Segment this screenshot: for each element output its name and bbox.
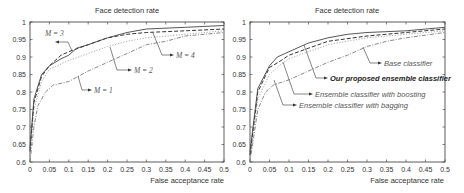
y-tick-label: 0.75 — [232, 106, 246, 113]
arrow-icon — [88, 89, 92, 92]
annotation-label: M = 1 — [93, 86, 113, 95]
y-tick-label: 0.95 — [232, 36, 246, 43]
y-tick-label: 0.8 — [236, 89, 246, 96]
x-tick-label: 0.3 — [362, 166, 372, 173]
left-annotation-m1: M = 1 — [78, 76, 113, 95]
series-line — [30, 33, 224, 163]
y-tick-label: 0.9 — [16, 54, 26, 61]
y-tick-label: 0.75 — [12, 106, 26, 113]
annotation-label: M = 3 — [44, 29, 64, 38]
annotation-label: Ensemble classifier with boosting — [315, 90, 426, 99]
y-tick-label: 1 — [242, 19, 246, 26]
x-tick-label: 0.5 — [440, 166, 450, 173]
y-tick-label: 0.6 — [16, 159, 26, 166]
x-tick-label: 0.45 — [419, 166, 433, 173]
x-tick-label: 0.3 — [142, 166, 152, 173]
x-tick-label: 0.25 — [120, 166, 134, 173]
y-tick-label: 0.7 — [16, 124, 26, 131]
x-tick-label: 0.4 — [180, 166, 190, 173]
x-tick-label: 0.5 — [219, 166, 229, 173]
annotation-label: Our proposed ensemble classifier — [330, 74, 452, 83]
arrow-icon — [324, 77, 328, 80]
arrow-icon — [378, 62, 382, 65]
arrow-icon — [309, 93, 313, 96]
left-x-axis-label: False acceptance rate — [150, 176, 224, 185]
left-annotation-m3: M = 3 — [44, 29, 72, 51]
x-tick-label: 0.35 — [380, 166, 394, 173]
x-tick-label: 0.05 — [43, 166, 57, 173]
left-plot-frame — [30, 22, 224, 162]
y-tick-label: 0.9 — [236, 54, 246, 61]
x-tick-label: 0.4 — [401, 166, 411, 173]
x-tick-label: 0.35 — [159, 166, 173, 173]
right-chart-title: Face detection rate — [315, 6, 379, 15]
y-tick-label: 0.85 — [12, 71, 26, 78]
x-tick-label: 0.25 — [341, 166, 355, 173]
left-chart: Face detection rate 00.050.10.150.20.250… — [12, 6, 229, 185]
roc-figure: Face detection rate 00.050.10.150.20.250… — [0, 0, 464, 193]
x-tick-label: 0.45 — [198, 166, 212, 173]
annotation-label: Ensemble classifier with bagging — [299, 101, 409, 110]
y-tick-label: 0.6 — [236, 159, 246, 166]
left-chart-title: Face detection rate — [95, 6, 159, 15]
arrow-icon — [128, 69, 132, 72]
y-tick-label: 0.85 — [232, 71, 246, 78]
annotation-label: M = 2 — [133, 66, 153, 75]
series-line — [30, 29, 224, 152]
right-x-axis-label: False acceptance rate — [370, 176, 444, 185]
x-tick-label: 0 — [248, 166, 252, 173]
y-tick-label: 0.65 — [232, 141, 246, 148]
left-series-lines — [30, 26, 224, 163]
y-tick-label: 0.7 — [236, 124, 246, 131]
y-tick-label: 0.65 — [12, 141, 26, 148]
series-line — [30, 26, 224, 149]
arrow-icon — [55, 41, 59, 44]
arrow-icon — [170, 54, 174, 57]
x-tick-label: 0.05 — [263, 166, 277, 173]
x-tick-label: 0.15 — [302, 166, 316, 173]
x-tick-label: 0.2 — [103, 166, 113, 173]
annotation-label: Base classifier — [384, 59, 433, 68]
x-tick-label: 0.15 — [81, 166, 95, 173]
left-axes: 00.050.10.150.20.250.30.350.40.450.50.60… — [12, 19, 229, 174]
x-tick-label: 0.1 — [284, 166, 294, 173]
y-tick-label: 1 — [22, 19, 26, 26]
x-tick-label: 0 — [28, 166, 32, 173]
series-line — [30, 31, 224, 155]
x-tick-label: 0.1 — [64, 166, 74, 173]
x-tick-label: 0.2 — [323, 166, 333, 173]
right-annotation-base: Base classifier — [363, 47, 433, 68]
y-tick-label: 0.95 — [12, 36, 26, 43]
annotation-label: M = 4 — [175, 51, 195, 60]
arrow-icon — [293, 104, 297, 107]
y-tick-label: 0.8 — [16, 89, 26, 96]
right-chart: Face detection rate 00.050.10.150.20.250… — [232, 6, 452, 185]
